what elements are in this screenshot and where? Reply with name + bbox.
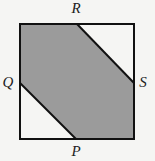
label-r: R (70, 0, 80, 16)
label-s: S (139, 74, 147, 90)
shaded-region (20, 24, 134, 139)
geometry-diagram: R Q P S (0, 0, 155, 161)
label-q: Q (3, 74, 14, 90)
label-p: P (70, 143, 80, 159)
